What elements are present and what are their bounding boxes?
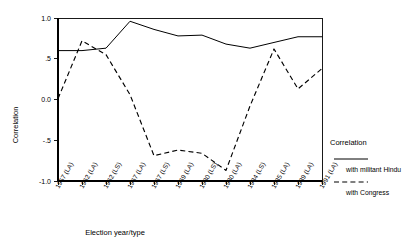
y-tick-label: .5 <box>45 55 51 62</box>
x-tick-label: 1969 (LA) <box>174 161 195 190</box>
x-tick-label: 1962 (LS) <box>102 161 123 190</box>
x-tick-label: 1984 (LS) <box>246 161 267 190</box>
legend: Correlation with militant Hindu with Con… <box>330 138 401 197</box>
y-tick-label: 1.0 <box>41 15 51 22</box>
correlation-line-chart: 1.0.50.0-.5-1.0 1957 (LA)1962 (LA)1962 (… <box>0 0 414 245</box>
legend-title: Correlation <box>330 138 367 147</box>
x-tick-label: 1980 (LA) <box>222 161 243 190</box>
x-tick-label: 1989 (LA) <box>294 161 315 190</box>
y-tick-label: 0.0 <box>41 96 51 103</box>
chart-canvas: 1.0.50.0-.5-1.0 1957 (LA)1962 (LA)1962 (… <box>0 0 414 245</box>
x-tick-label: 1967 (LS) <box>150 161 171 190</box>
x-tick-label: 1967 (LA) <box>126 161 147 190</box>
legend-label-militant-hindu: with militant Hindu <box>345 166 401 173</box>
y-axis-title: Correlation <box>11 107 20 144</box>
y-tick-label: -.5 <box>43 137 51 144</box>
x-tick-label: 1962 (LA) <box>78 161 99 190</box>
y-axis-ticks: 1.0.50.0-.5-1.0 <box>39 15 58 185</box>
x-tick-label: 1991 (LA) <box>318 161 339 190</box>
x-tick-label: 1980 (LS) <box>198 161 219 190</box>
x-axis-title: Election year/type <box>85 228 145 237</box>
plot-frame <box>58 18 322 181</box>
legend-label-congress: with Congress <box>345 189 390 197</box>
x-tick-label: 1957 (LA) <box>54 161 75 190</box>
series-line-with-congress <box>58 41 322 171</box>
data-series-group <box>58 21 322 170</box>
series-line-with-militant-hindu <box>58 21 322 50</box>
x-tick-label: 1985 (LA) <box>270 161 291 190</box>
y-tick-label: -1.0 <box>39 178 51 185</box>
x-axis-ticks: 1957 (LA)1962 (LA)1962 (LS)1967 (LA)1967… <box>54 161 339 190</box>
